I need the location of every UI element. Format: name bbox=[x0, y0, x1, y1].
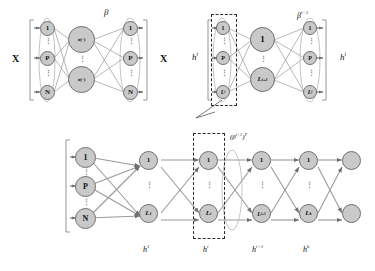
bottom-h1-node-bot: L1 bbox=[139, 204, 158, 223]
bottom-hi-node-bot: Li bbox=[199, 204, 218, 223]
bottom-input-node-1: 1 bbox=[75, 147, 96, 168]
figure-canvas: X X β 1 P N ⋮ ⋮ σ(·) σ(·) ⋮ 1 P N ⋮ ⋮ hi… bbox=[0, 0, 375, 271]
bottom-layer-label-h1: h1 bbox=[143, 246, 149, 254]
bottom-input-node-n: N bbox=[75, 208, 96, 229]
bottom-input-node-p: P bbox=[75, 176, 96, 197]
tl-output-dots-2: ⋮ bbox=[128, 70, 135, 77]
panel-top-right-weight-label: βi+1 bbox=[297, 12, 308, 20]
tr-hidden-dots: ⋮ bbox=[260, 56, 267, 63]
tl-hidden-node-2: σ(·) bbox=[68, 66, 95, 93]
bottom-output-node-bot bbox=[342, 204, 361, 223]
tl-hidden-dots: ⋮ bbox=[79, 56, 86, 63]
bottom-hi1-dots: ⋮ bbox=[259, 182, 266, 189]
panel-top-left-input-label: X bbox=[12, 54, 19, 64]
tl-output-node-p: P bbox=[123, 51, 138, 66]
tr-input-dots-2: ⋮ bbox=[221, 70, 228, 77]
tl-input-node-n: N bbox=[40, 85, 55, 100]
bottom-input-dots-2: ⋮ bbox=[83, 199, 90, 206]
connection-edges bbox=[0, 0, 375, 271]
bottom-hi-dots: ⋮ bbox=[206, 182, 213, 189]
tr-input-node-1: 1 bbox=[216, 21, 230, 35]
tr-input-node-p: P bbox=[216, 51, 230, 65]
bottom-input-dots-1: ⋮ bbox=[83, 169, 90, 176]
tr-output-node-p: P bbox=[303, 51, 317, 65]
tl-output-node-1: 1 bbox=[123, 21, 138, 36]
bottom-layer-label-hk: hk bbox=[303, 246, 309, 254]
tl-output-dots-1: ⋮ bbox=[128, 38, 135, 45]
tl-input-node-p: P bbox=[40, 51, 55, 66]
bottom-h1-node-top: 1 bbox=[139, 151, 158, 170]
bottom-hk-node-bot: Lk bbox=[299, 204, 318, 223]
tr-output-dots-2: ⋮ bbox=[308, 70, 315, 77]
tr-hidden-node-l: Li+1 bbox=[250, 67, 275, 92]
tl-input-node-1: 1 bbox=[40, 21, 55, 36]
bottom-layer-label-hi: hi bbox=[203, 246, 208, 254]
tl-input-dots-1: ⋮ bbox=[45, 38, 52, 45]
tr-output-dots-1: ⋮ bbox=[308, 38, 315, 45]
tr-output-node-l: Li bbox=[303, 85, 317, 99]
panel-top-right-output-label: hi bbox=[340, 53, 346, 62]
panel-top-left-weight-label: β bbox=[104, 8, 108, 17]
bottom-hi-node-top: 1 bbox=[199, 151, 218, 170]
bottom-output-node-top bbox=[342, 151, 361, 170]
bottom-layer-label-hi1: hi+1 bbox=[252, 246, 263, 254]
panel-top-right-input-label: hi bbox=[192, 53, 198, 62]
bottom-hi1-node-bot: Li+1 bbox=[252, 204, 271, 223]
tr-input-node-l: Li bbox=[216, 85, 230, 99]
bottom-hi1-node-top: 1 bbox=[252, 151, 271, 170]
tl-hidden-node-1: σ(·) bbox=[68, 26, 95, 53]
bottom-h1-dots: ⋮ bbox=[146, 182, 153, 189]
bottom-hk-dots: ⋮ bbox=[306, 182, 313, 189]
tr-input-dots-1: ⋮ bbox=[221, 38, 228, 45]
tr-hidden-node-1: 1 bbox=[250, 27, 275, 52]
bottom-weight-label: (βi+1)T bbox=[230, 134, 247, 141]
panel-top-left-output-label: X bbox=[160, 54, 167, 64]
bottom-hk-node-top: 1 bbox=[299, 151, 318, 170]
tl-output-node-n: N bbox=[123, 85, 138, 100]
tl-input-dots-2: ⋮ bbox=[45, 70, 52, 77]
tr-output-node-1: 1 bbox=[303, 21, 317, 35]
